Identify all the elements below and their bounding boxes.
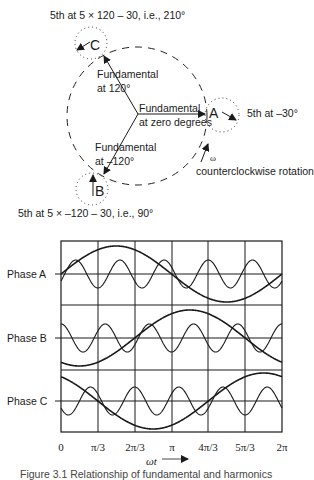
row-label-phase-b: Phase B — [7, 332, 47, 344]
x-tick-2pi-3: 2π/3 — [125, 441, 145, 453]
x-axis-label: ωt — [146, 455, 157, 467]
row-label-phase-a: Phase A — [7, 268, 46, 280]
rotation-label: counterclockwise rotation — [196, 165, 314, 177]
row-label-phase-c: Phase C — [7, 395, 47, 407]
x-tick-0: 0 — [58, 441, 64, 453]
fund-0-line2: at zero degrees — [139, 116, 212, 128]
phase-a-letter: A — [209, 106, 218, 120]
x-tick-pi: π — [169, 441, 175, 453]
x-tick-2pi: 2π — [276, 441, 287, 453]
fifth-c-title: 5th at 5 × 120 – 30, i.e., 210° — [50, 9, 185, 21]
fund-120-line2: at 120° — [97, 82, 130, 94]
fifth-a-label: 5th at –30° — [247, 107, 298, 119]
x-tick-pi-3: π/3 — [91, 441, 105, 453]
omega-rotation-arrow — [201, 144, 208, 162]
phase-b-letter: B — [95, 184, 104, 198]
fund-120-line1: Fundamental — [97, 68, 158, 80]
omega-symbol: ω — [210, 152, 216, 164]
fund-minus120-line2: at –120° — [95, 155, 134, 167]
x-tick-5pi-3: 5π/3 — [235, 441, 255, 453]
phase-c-letter: C — [90, 38, 100, 52]
x-tick-4pi-3: 4π/3 — [198, 441, 218, 453]
fund-0-line1: Fundamental — [139, 102, 200, 114]
figure-caption: Figure 3.1 Relationship of fundamental a… — [20, 468, 272, 480]
fifth-c-arrow — [77, 42, 90, 50]
fifth-a-arrow — [222, 112, 236, 120]
fund-minus120-line1: Fundamental — [95, 141, 156, 153]
fifth-b-title: 5th at 5 × –120 – 30, i.e., 90° — [18, 207, 153, 219]
